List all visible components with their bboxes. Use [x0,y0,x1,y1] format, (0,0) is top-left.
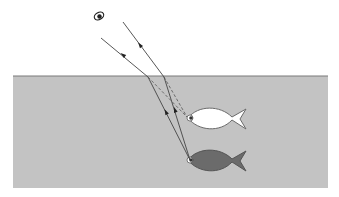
ray-left-air-segment [101,38,148,77]
ray-right-air-segment [123,22,164,77]
ray-left-air-arrow-icon [120,53,126,58]
refraction-diagram [0,0,339,197]
water-body [13,76,328,188]
observer-eye-pupil [97,14,101,18]
observer-eye-icon [93,10,105,21]
diagram-canvas [0,0,339,197]
apparent-fish-eye-icon [189,116,193,120]
